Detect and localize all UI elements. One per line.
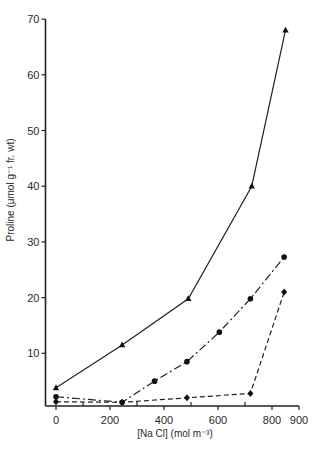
y-tick-label: 30 <box>27 236 39 248</box>
x-tick-label: 600 <box>209 414 227 426</box>
x-tick-label: 900 <box>290 414 308 426</box>
circle-marker <box>217 329 223 335</box>
x-tick-label: 800 <box>263 414 281 426</box>
triangle-marker <box>53 384 59 390</box>
x-tick-label: 200 <box>101 414 119 426</box>
proline-chart: 102030405060700200400600800900 Proline (… <box>0 0 319 450</box>
series-line-circle-dashdot <box>56 257 284 402</box>
circle-marker <box>248 296 254 302</box>
axes: 102030405060700200400600800900 <box>27 13 308 426</box>
triangle-marker <box>185 295 191 301</box>
triangle-marker <box>119 341 125 347</box>
y-tick-label: 20 <box>27 292 39 304</box>
circle-marker <box>184 359 190 365</box>
diamond-marker <box>53 398 59 405</box>
circle-marker <box>152 378 158 384</box>
series-line-triangle-solid <box>56 30 286 388</box>
y-tick-label: 70 <box>27 13 39 25</box>
diamond-marker <box>281 289 287 296</box>
x-axis-title: [Na Cl] (mol m⁻³) <box>137 428 213 439</box>
x-tick-label: 400 <box>155 414 173 426</box>
circle-marker <box>281 254 287 260</box>
y-tick-label: 10 <box>27 347 39 359</box>
data-series <box>53 27 289 406</box>
x-tick-label: 0 <box>53 414 59 426</box>
y-tick-label: 50 <box>27 125 39 137</box>
diamond-marker <box>247 390 253 397</box>
triangle-marker <box>249 183 255 189</box>
y-tick-label: 60 <box>27 69 39 81</box>
diamond-marker <box>184 394 190 401</box>
y-tick-label: 40 <box>27 180 39 192</box>
y-axis-title: Proline (μmol g⁻¹ fr. wt) <box>5 138 16 241</box>
triangle-marker <box>282 27 288 33</box>
series-line-diamond-dashed <box>56 292 284 402</box>
diamond-marker <box>119 399 125 406</box>
